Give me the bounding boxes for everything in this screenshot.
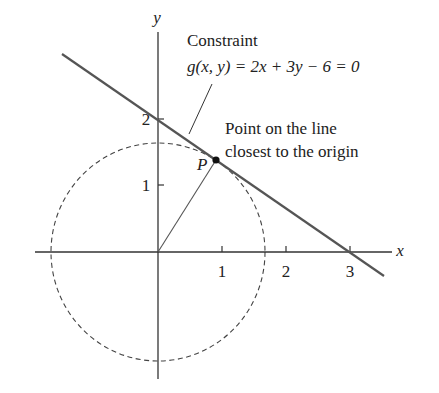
y-axis-label: y [151,8,161,27]
constraint-title: Constraint [187,31,258,50]
point-annotation-line2: closest to the origin [225,142,359,161]
constraint-line [62,54,384,276]
constraint-equation: g(x, y) = 2x + 3y − 6 = 0 [187,57,360,76]
x-tick-label-1: 1 [218,262,227,281]
x-tick-label-2: 2 [282,262,291,281]
x-axis-label: x [395,241,404,260]
x-tick-label-3: 3 [346,262,355,281]
point-p-marker [212,156,219,163]
point-p-label: P [196,155,207,174]
constraint-leader-line [189,84,212,134]
lagrange-constraint-diagram: 1 2 3 1 2 x y P Constraint g(x, y) = 2x … [0,0,439,393]
point-annotation-line1: Point on the line [225,119,337,138]
y-tick-label-1: 1 [142,176,151,195]
